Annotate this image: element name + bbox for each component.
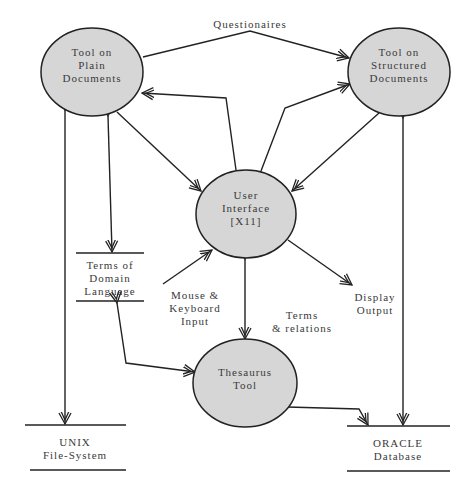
flow-plain-domain [108,116,112,252]
flow-mouse-keyboard [163,250,212,284]
flow-label-questionaires: Questionaires [200,18,300,31]
process-structured-documents[interactable] [348,28,450,116]
flow-structured-to-ui [292,113,379,191]
store-label-oracle: ORACLE Database [348,437,448,463]
flow-display-output [288,240,352,285]
store-label-domain: Terms of Domain Language [70,259,150,298]
flow-plain-to-ui [117,112,201,191]
flow-ui-to-plain [142,93,236,170]
process-user-interface[interactable] [196,170,296,258]
flow-ui-to-structured [261,84,350,171]
process-plain-documents[interactable] [41,28,143,116]
flow-label-mouse-keyboard: Mouse & Keyboard Input [155,289,235,328]
process-thesaurus-tool[interactable] [193,339,297,427]
flow-label-display-output: Display Output [340,291,410,317]
diagram-canvas [0,0,476,499]
flow-label-terms-relations: Terms & relations [262,309,342,335]
store-label-unix: UNIX File-System [25,436,125,462]
flow-thesaurus-oracle [287,407,368,425]
flow-questionaires [143,31,349,58]
